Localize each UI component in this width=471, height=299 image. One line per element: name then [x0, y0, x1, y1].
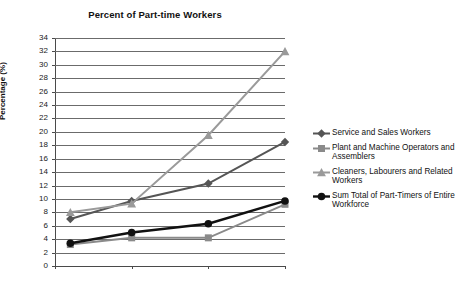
y-tick-label: 16 [28, 155, 48, 163]
y-tick-label: 12 [28, 182, 48, 190]
y-tick-label: 2 [28, 249, 48, 257]
y-tick-label: 18 [28, 141, 48, 149]
triangle-marker-icon [281, 47, 290, 55]
legend-item-label: Sum Total of Part-Timers of Entire Workf… [332, 191, 469, 210]
legend-item-label: Service and Sales Workers [332, 128, 469, 138]
y-tick-label: 30 [28, 61, 48, 69]
circle-marker-icon [67, 239, 75, 247]
legend-item[interactable]: Plant and Machine Operators and Assemble… [313, 143, 469, 162]
circle-marker-icon [313, 192, 330, 200]
y-axis-title: Percentage (%) [0, 62, 7, 120]
series-plot [55, 38, 286, 267]
legend-item[interactable]: Sum Total of Part-Timers of Entire Workf… [313, 191, 469, 210]
legend-item[interactable]: Service and Sales Workers [313, 128, 469, 138]
circle-marker-icon [205, 220, 213, 228]
diamond-marker-icon [317, 129, 325, 137]
chart-title: Percent of Part-time Workers [0, 9, 310, 20]
y-tick-label: 8 [28, 208, 48, 216]
square-marker-icon [318, 145, 325, 152]
chart-container: Percent of Part-time Workers Percentage … [0, 0, 471, 299]
y-tick-label: 28 [28, 74, 48, 82]
diamond-marker-icon [204, 179, 212, 187]
y-tick-label: 10 [28, 195, 48, 203]
triangle-marker-icon [313, 168, 330, 176]
y-tick-label: 4 [28, 235, 48, 243]
y-tick-label: 14 [28, 168, 48, 176]
chart-legend: Service and Sales WorkersPlant and Machi… [313, 128, 469, 215]
y-tick-label: 22 [28, 114, 48, 122]
legend-item[interactable]: Cleaners, Labourers and Related Workers [313, 167, 469, 186]
y-tick-label: 6 [28, 222, 48, 230]
circle-marker-icon [318, 192, 326, 200]
diamond-marker-icon [281, 138, 289, 146]
legend-item-label: Plant and Machine Operators and Assemble… [332, 143, 469, 162]
circle-marker-icon [281, 197, 289, 205]
diamond-marker-icon [66, 215, 74, 223]
square-marker-icon [205, 234, 212, 241]
diamond-marker-icon [313, 129, 330, 137]
y-tick-label: 20 [28, 128, 48, 136]
legend-item-label: Cleaners, Labourers and Related Workers [332, 167, 469, 186]
y-tick-label: 32 [28, 47, 48, 55]
series-line [70, 51, 285, 212]
circle-marker-icon [128, 229, 136, 237]
y-tick-label: 0 [28, 262, 48, 270]
square-marker-icon [313, 144, 330, 152]
y-tick-label: 26 [28, 88, 48, 96]
y-tick-label: 24 [28, 101, 48, 109]
y-tick-label: 34 [28, 34, 48, 42]
